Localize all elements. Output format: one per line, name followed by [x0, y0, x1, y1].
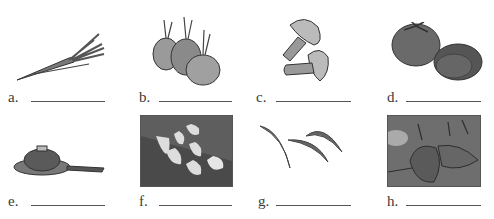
peppers-photo [387, 115, 481, 187]
item-letter: h. [387, 193, 398, 210]
item-letter: e. [8, 193, 18, 210]
item-letter: g. [258, 193, 269, 210]
answer-blank-d[interactable] [406, 101, 481, 102]
answer-blank-g[interactable] [276, 205, 351, 206]
answer-blank-a[interactable] [31, 101, 105, 102]
garlic-photo [140, 115, 233, 187]
mushrooms-icon [280, 15, 330, 83]
item-letter: f. [139, 193, 148, 210]
item-letter: d. [387, 89, 398, 106]
tomato-icon [388, 22, 483, 84]
green-beans-icon [258, 124, 348, 174]
answer-blank-h[interactable] [406, 205, 481, 206]
answer-blank-b[interactable] [159, 101, 232, 102]
answer-blank-f[interactable] [159, 205, 232, 206]
item-letter: c. [256, 89, 266, 106]
item-letter: b. [139, 89, 150, 106]
onions-icon [148, 12, 223, 87]
frying-pan-icon [12, 142, 107, 177]
item-letter: a. [8, 89, 18, 106]
carrot-icon [14, 30, 109, 85]
answer-blank-c[interactable] [276, 101, 351, 102]
answer-blank-e[interactable] [31, 205, 105, 206]
